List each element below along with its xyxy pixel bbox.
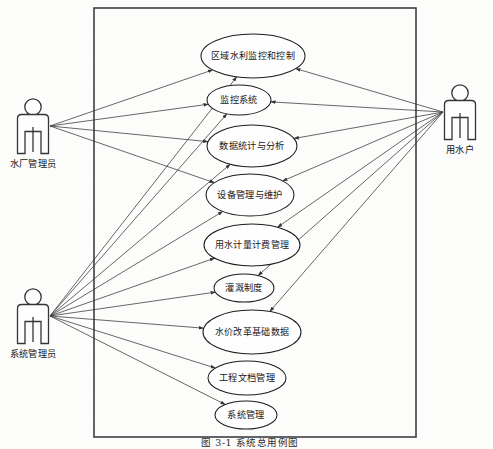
use-case-label-uc1: 区域水利监控和控制 <box>211 50 295 61</box>
association-system-admin-to-uc5[interactable] <box>50 258 215 316</box>
use-case-label-uc8: 工程文档管理 <box>219 372 275 383</box>
use-case-label-uc6: 灌溉制度 <box>225 282 262 293</box>
use-case-label-uc5: 用水计量计费管理 <box>215 239 289 250</box>
use-case-uc2[interactable]: 监控系统 <box>207 85 271 115</box>
association-system-admin-to-uc2[interactable] <box>50 114 227 316</box>
association-system-admin-to-uc9[interactable] <box>50 316 225 405</box>
use-case-uc3[interactable]: 数据统计与分析 <box>207 125 297 167</box>
actor-label-water-plant-admin: 水厂管理员 <box>10 158 57 169</box>
association-water-user-to-uc1[interactable] <box>296 69 443 112</box>
actor-label-water-user: 用水户 <box>446 144 474 155</box>
actor-label-system-admin: 系统管理员 <box>10 348 57 359</box>
use-case-uc4[interactable]: 设备管理与维护 <box>206 174 294 216</box>
association-water-user-to-uc3[interactable] <box>294 112 443 139</box>
use-case-uc7[interactable]: 水价改革基础数据 <box>203 310 301 354</box>
use-case-layer: 区域水利监控和控制监控系统数据统计与分析设备管理与维护用水计量计费管理灌溉制度水… <box>201 34 305 429</box>
actor-water-plant-admin[interactable]: 水厂管理员 <box>10 99 57 169</box>
actor-water-user[interactable]: 用水户 <box>445 85 476 155</box>
association-system-admin-to-uc7[interactable] <box>50 316 204 328</box>
use-case-uc8[interactable]: 工程文档管理 <box>208 361 286 395</box>
association-water-plant-admin-to-uc2[interactable] <box>50 104 208 126</box>
use-case-uc9[interactable]: 系统管理 <box>215 401 277 429</box>
figure-caption: 图 3-1 系统总用例图 <box>201 437 298 448</box>
association-water-user-to-uc2[interactable] <box>271 102 443 112</box>
association-system-admin-to-uc6[interactable] <box>50 292 215 316</box>
use-case-label-uc2: 监控系统 <box>220 94 257 105</box>
association-system-admin-to-uc3[interactable] <box>50 164 230 316</box>
association-water-plant-admin-to-uc1[interactable] <box>50 70 213 126</box>
actor-head <box>452 85 468 101</box>
use-case-label-uc9: 系统管理 <box>227 409 264 420</box>
association-water-user-to-uc4[interactable] <box>283 112 443 181</box>
use-case-label-uc4: 设备管理与维护 <box>217 189 282 200</box>
association-system-admin-to-uc8[interactable] <box>50 316 215 368</box>
actor-head <box>25 289 41 305</box>
use-case-uc1[interactable]: 区域水利监控和控制 <box>201 34 305 78</box>
association-system-admin-to-uc4[interactable] <box>50 211 223 316</box>
use-case-label-uc3: 数据统计与分析 <box>219 140 284 151</box>
use-case-diagram: 区域水利监控和控制监控系统数据统计与分析设备管理与维护用水计量计费管理灌溉制度水… <box>0 0 493 449</box>
use-case-label-uc7: 水价改革基础数据 <box>215 326 289 337</box>
actor-head <box>25 99 41 115</box>
association-water-user-to-uc5[interactable] <box>278 112 443 227</box>
use-case-uc6[interactable]: 灌溉制度 <box>214 274 274 302</box>
diagram-canvas: 区域水利监控和控制监控系统数据统计与分析设备管理与维护用水计量计费管理灌溉制度水… <box>0 0 493 449</box>
use-case-uc5[interactable]: 用水计量计费管理 <box>204 224 300 266</box>
actor-system-admin[interactable]: 系统管理员 <box>10 289 57 359</box>
